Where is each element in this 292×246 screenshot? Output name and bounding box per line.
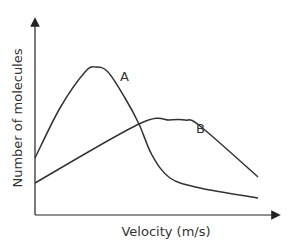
curve-b-label: B bbox=[196, 121, 205, 136]
curve-a bbox=[35, 67, 258, 198]
curve-b bbox=[35, 118, 258, 183]
x-axis-label: Velocity (m/s) bbox=[0, 224, 292, 239]
y-axis-label: Number of molecules bbox=[10, 48, 25, 187]
curve-a-label: A bbox=[120, 69, 129, 84]
chart-canvas bbox=[0, 0, 292, 246]
